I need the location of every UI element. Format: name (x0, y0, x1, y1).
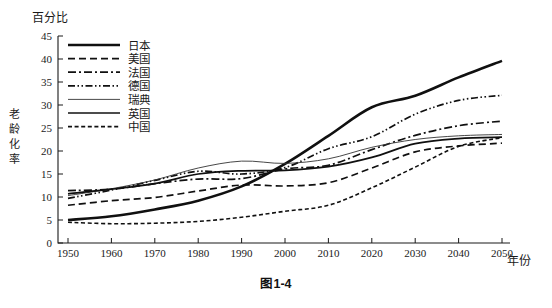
x-tick-label: 2000 (274, 247, 297, 259)
figure-caption: 图1-4 (260, 277, 291, 291)
x-tick-label: 1950 (57, 247, 80, 259)
y-tick-label: 20 (41, 145, 53, 157)
y-tick-label: 35 (41, 76, 53, 88)
legend-label-瑞典[interactable]: 瑞典 (128, 93, 151, 106)
x-tick-label: 1960 (100, 247, 123, 259)
x-tick-label: 1980 (187, 247, 210, 259)
x-tick-label: 2050 (491, 247, 514, 259)
y-axis-title-char: 率 (9, 152, 20, 165)
y-axis-title-char: 化 (9, 137, 20, 150)
y-axis-title-char: 龄 (9, 122, 20, 135)
figure-container: 百分比 老龄化率 年份 051015202530354045 195019601… (0, 0, 552, 308)
x-tick-label: 2010 (317, 247, 340, 259)
y-tick-label: 45 (41, 30, 53, 42)
legend-label-日本[interactable]: 日本 (128, 39, 151, 52)
x-tick-label: 2040 (448, 247, 471, 259)
y-tick-label: 25 (41, 122, 53, 134)
y-tick-label: 10 (41, 191, 53, 203)
y-tick-label: 0 (47, 237, 53, 249)
y-tick-label: 40 (41, 53, 53, 65)
y-tick-label: 15 (41, 168, 53, 180)
legend-label-中国[interactable]: 中国 (128, 121, 150, 133)
legend-label-德国[interactable]: 德国 (128, 79, 150, 92)
legend-label-英国[interactable]: 英国 (128, 107, 150, 120)
legend-label-法国[interactable]: 法国 (128, 66, 150, 79)
aging-rate-line-chart: 百分比 老龄化率 年份 051015202530354045 195019601… (0, 0, 552, 308)
y-unit-label: 百分比 (32, 11, 68, 25)
y-tick-label: 30 (41, 99, 53, 111)
y-tick-label: 5 (47, 214, 53, 226)
x-tick-label: 2020 (361, 247, 384, 259)
x-tick-label: 1970 (144, 247, 167, 259)
x-tick-label: 2030 (404, 247, 427, 259)
legend-label-美国[interactable]: 美国 (128, 52, 150, 65)
y-axis-title-char: 老 (9, 108, 20, 120)
x-tick-label: 1990 (231, 247, 254, 259)
